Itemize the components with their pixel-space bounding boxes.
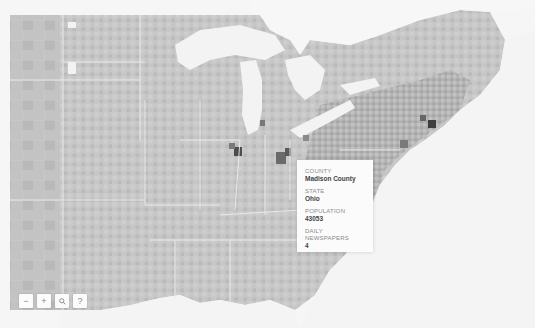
search-button[interactable] (55, 294, 69, 308)
population-value: 43053 (305, 215, 365, 223)
county-tooltip: COUNTY Madison County STATE Ohio POPULAT… (297, 160, 373, 252)
state-label: STATE (305, 188, 365, 195)
minus-icon: − (23, 296, 28, 306)
newspapers-label: DAILY NEWSPAPERS (305, 228, 365, 242)
choropleth-map[interactable] (0, 0, 535, 328)
state-value: Ohio (305, 195, 365, 203)
zoom-in-button[interactable]: + (37, 294, 51, 308)
zoom-out-button[interactable]: − (19, 294, 33, 308)
help-button[interactable]: ? (73, 294, 87, 308)
county-label: COUNTY (305, 168, 365, 175)
plus-icon: + (41, 296, 46, 306)
question-icon: ? (77, 296, 82, 306)
map-controls: − + ? (19, 294, 87, 308)
newspapers-value: 4 (305, 242, 365, 250)
county-value: Madison County (305, 175, 365, 183)
search-icon (59, 298, 66, 305)
population-label: POPULATION (305, 208, 365, 215)
